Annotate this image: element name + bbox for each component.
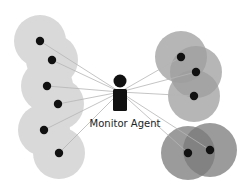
sensor-node xyxy=(55,149,63,157)
agent-body xyxy=(113,89,127,111)
sensor-node xyxy=(54,100,62,108)
monitor-agent-diagram xyxy=(0,0,250,193)
sensor-node xyxy=(184,149,192,157)
sensor-node xyxy=(206,146,214,154)
person-icon xyxy=(113,75,127,112)
right-group xyxy=(155,31,222,122)
agent-label: Monitor Agent xyxy=(0,118,250,129)
sensor-node xyxy=(192,68,200,76)
sensor-node xyxy=(177,53,185,61)
sensor-node xyxy=(48,56,56,64)
sensor-node xyxy=(43,82,51,90)
sensor-node xyxy=(36,37,44,45)
bottom-right-group xyxy=(161,123,237,180)
agent-head xyxy=(114,75,127,88)
left-group xyxy=(14,15,85,179)
sensor-node xyxy=(190,92,198,100)
